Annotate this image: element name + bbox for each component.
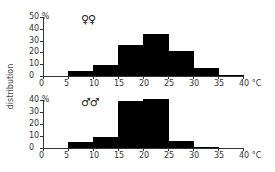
x-tick-label: 35 xyxy=(214,152,224,160)
x-tick-label: 20 xyxy=(139,152,149,160)
female-symbol: ♀♀ xyxy=(81,13,95,26)
y-tick xyxy=(40,41,43,42)
histogram-bar xyxy=(93,65,119,76)
histogram-bar xyxy=(93,137,119,148)
x-tick-label: 40 °C xyxy=(239,152,261,160)
y-tick-label: 0 xyxy=(29,72,39,80)
x-tick-label: 5 xyxy=(64,152,69,160)
y-tick xyxy=(40,52,43,53)
histogram-bar xyxy=(68,71,94,76)
y-tick-label: 10 xyxy=(29,60,39,68)
y-tick-label: 30 xyxy=(29,108,39,116)
female-distribution-chart: 01020304050 %0510152025303540 °C♀♀ xyxy=(0,0,275,86)
y-tick xyxy=(40,29,43,30)
histogram-bar xyxy=(143,34,169,76)
histogram-bar xyxy=(193,147,219,148)
y-tick xyxy=(40,124,43,125)
histogram-bar xyxy=(168,51,194,76)
histogram-bar xyxy=(218,75,244,76)
y-tick-label: 0 xyxy=(29,144,39,152)
y-tick-label: 40 % xyxy=(29,96,51,104)
y-tick-label: 50 % xyxy=(29,13,51,21)
histogram-bar xyxy=(68,142,94,148)
y-tick xyxy=(40,112,43,113)
male-symbol: ♂♂ xyxy=(81,96,99,109)
x-tick-label: 10 xyxy=(89,152,99,160)
y-tick-label: 10 xyxy=(29,132,39,140)
y-tick xyxy=(40,64,43,65)
x-tick-label: 30 xyxy=(189,152,199,160)
x-tick-label: 25 xyxy=(164,152,174,160)
y-axis xyxy=(43,100,44,148)
x-tick-label: 15 xyxy=(114,152,124,160)
y-tick xyxy=(40,136,43,137)
y-axis xyxy=(43,17,44,76)
histogram-bar xyxy=(118,101,144,148)
male-distribution-chart: 010203040 %0510152025303540 °C♂♂ xyxy=(0,86,275,172)
y-tick-label: 20 xyxy=(29,48,39,56)
y-tick-label: 40 xyxy=(29,25,39,33)
histogram-bar xyxy=(168,141,194,148)
y-tick-label: 30 xyxy=(29,37,39,45)
histogram-bar xyxy=(143,99,169,148)
histogram-bar xyxy=(193,68,219,76)
x-tick-label: 0 xyxy=(39,152,44,160)
histogram-bar xyxy=(118,45,144,76)
y-tick-label: 20 xyxy=(29,120,39,128)
